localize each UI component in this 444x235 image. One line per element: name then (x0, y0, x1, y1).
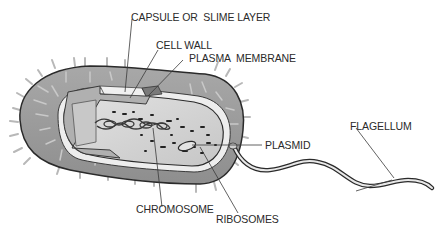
label-flagellum: FLAGELLUM (350, 121, 412, 132)
label-ribosomes: RIBOSOMES (216, 214, 279, 225)
label-plasma-membrane: PLASMA MEMBRANE (189, 53, 296, 64)
label-cell-wall: CELL WALL (156, 40, 212, 51)
label-plasmid: PLASMID (265, 140, 310, 151)
bacterial-cell-diagram (0, 0, 444, 235)
label-capsule: CAPSULE OR SLIME LAYER (131, 12, 270, 23)
label-chromosome: CHROMOSOME (136, 204, 214, 215)
